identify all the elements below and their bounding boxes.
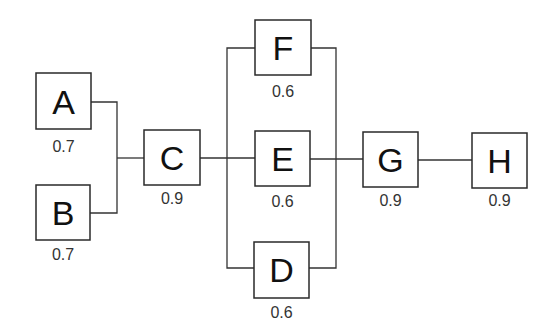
block-g-reliability: 0.9	[379, 192, 401, 209]
block-h: H 0.9	[472, 133, 527, 209]
block-b-label: B	[52, 194, 75, 232]
block-h-label: H	[487, 142, 512, 180]
block-b-reliability: 0.7	[52, 246, 74, 263]
block-a-label: A	[52, 83, 75, 121]
block-c-reliability: 0.9	[161, 190, 183, 207]
block-e-label: E	[271, 140, 294, 178]
reliability-diagram: A 0.7 B 0.7 C 0.9 F 0.6 E 0.6 D 0.6 G 0.…	[0, 0, 551, 332]
block-c-label: C	[160, 139, 185, 177]
block-d-label: D	[269, 251, 294, 289]
block-c: C 0.9	[144, 130, 200, 207]
block-b: B 0.7	[36, 185, 90, 263]
block-e: E 0.6	[255, 131, 310, 210]
block-d-reliability: 0.6	[270, 304, 292, 321]
block-g-label: G	[377, 141, 403, 179]
block-h-reliability: 0.9	[488, 192, 510, 209]
block-f-reliability: 0.6	[272, 83, 294, 100]
parallel-fed-right-bus	[309, 48, 336, 268]
block-f-label: F	[273, 29, 294, 67]
block-e-reliability: 0.6	[271, 193, 293, 210]
block-d: D 0.6	[254, 242, 309, 321]
block-g: G 0.9	[363, 132, 418, 209]
block-a-reliability: 0.7	[52, 138, 74, 155]
parallel-ab-bus	[90, 102, 117, 213]
block-f: F 0.6	[255, 20, 311, 100]
block-a: A 0.7	[36, 73, 91, 155]
